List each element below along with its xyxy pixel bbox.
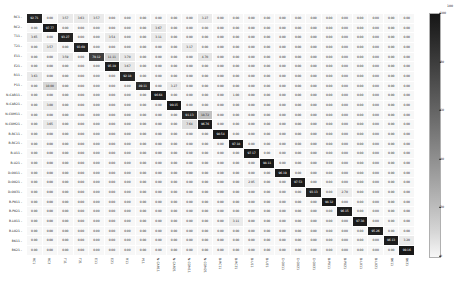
heatmap-cell: 0.00 — [73, 52, 89, 62]
heatmap-cell: 0.00 — [42, 197, 58, 207]
heatmap-cell: 0.00 — [259, 188, 275, 198]
heatmap-cell: 0.00 — [197, 130, 213, 140]
heatmap-cell: 0.00 — [73, 81, 89, 91]
heatmap-cell: 3.63 — [73, 14, 89, 24]
heatmap-cell: 0.00 — [337, 33, 353, 43]
heatmap-cell: 0.00 — [73, 130, 89, 140]
heatmap-cell: 0.00 — [399, 33, 415, 43]
heatmap-cell: 0.00 — [120, 159, 136, 169]
heatmap-cell: 0.00 — [228, 236, 244, 246]
heatmap-cell: 0.00 — [151, 101, 167, 111]
heatmap-cell: 0.00 — [337, 246, 353, 256]
heatmap-cell: 0.00 — [290, 101, 306, 111]
heatmap-cell: 0.00 — [89, 101, 105, 111]
heatmap-cell: 0.00 — [89, 23, 105, 33]
heatmap-cell: 0.00 — [259, 72, 275, 82]
heatmap-cell: 0.00 — [120, 43, 136, 53]
heatmap-cell: 0.00 — [120, 14, 136, 24]
heatmap-cell: 93.13 — [306, 188, 322, 198]
heatmap-cell: 0.00 — [337, 130, 353, 140]
heatmap-cell: 0.00 — [259, 139, 275, 149]
heatmap-cell: 0.00 — [306, 168, 322, 178]
heatmap-cell: 0.00 — [89, 178, 105, 188]
heatmap-cell: 0.00 — [166, 120, 182, 130]
heatmap-cell: 0.00 — [42, 139, 58, 149]
x-axis-tick-label: B-RC11 — [218, 258, 222, 269]
heatmap-cell: 0.00 — [135, 23, 151, 33]
heatmap-cell: 0.00 — [182, 62, 198, 72]
x-axis-tick-label: B-L011 — [359, 258, 363, 269]
heatmap-cell: 0.00 — [135, 72, 151, 82]
heatmap-cell: 0.00 — [368, 139, 384, 149]
heatmap-cell: 0.00 — [166, 178, 182, 188]
heatmap-cell: 0.00 — [151, 72, 167, 82]
heatmap-row: 0.003.000.000.000.000.000.000.000.0099.1… — [27, 101, 415, 111]
x-axis-tick-label: P11 — [141, 258, 145, 264]
x-axis-tick: B-U11 — [244, 257, 260, 293]
heatmap-cell: 0.00 — [213, 246, 229, 256]
heatmap-cell: 0.00 — [368, 91, 384, 101]
heatmap-cell: 0.00 — [213, 14, 229, 24]
heatmap-cell: 0.00 — [182, 168, 198, 178]
heatmap-cell: 0.00 — [352, 81, 368, 91]
heatmap-cell: 0.00 — [135, 120, 151, 130]
x-axis-tick: D-O021 — [291, 257, 307, 293]
heatmap-cell: 0.00 — [58, 188, 74, 198]
heatmap-cell: 0.00 — [228, 149, 244, 159]
heatmap-cell: 0.00 — [73, 149, 89, 159]
heatmap-cell: 0.00 — [290, 33, 306, 43]
heatmap-cell: 0.00 — [27, 81, 43, 91]
x-axis-tick-label: N-COM11 — [187, 258, 191, 273]
heatmap-cell: 0.00 — [368, 246, 384, 256]
x-axis-tick: E11 — [88, 257, 104, 293]
heatmap-cell: 0.00 — [290, 188, 306, 198]
heatmap-cell: 0.00 — [197, 236, 213, 246]
x-axis-labels: RC1RC2T11T21E11E21R11P11N-CAR11N-CAR21N-… — [26, 257, 415, 293]
x-axis-tick: B-P011 — [322, 257, 338, 293]
heatmap-row: 92.710.003.573.633.570.000.000.000.000.0… — [27, 14, 415, 24]
heatmap-cell: 0.00 — [166, 52, 182, 62]
heatmap-cell: 0.00 — [306, 149, 322, 159]
heatmap-cell: 0.00 — [104, 168, 120, 178]
heatmap-cell: 0.00 — [290, 217, 306, 227]
heatmap-cell: 0.00 — [213, 188, 229, 198]
heatmap-cell: 0.00 — [259, 130, 275, 140]
heatmap-cell: 96.76 — [197, 120, 213, 130]
x-axis-tick-label: T11 — [63, 258, 67, 264]
heatmap-cell: 2.70 — [337, 188, 353, 198]
heatmap-cell: 0.00 — [383, 52, 399, 62]
heatmap-cell: 0.00 — [27, 246, 43, 256]
heatmap-cell: 0.00 — [182, 52, 198, 62]
heatmap-cell: 0.00 — [73, 101, 89, 111]
heatmap-cell: 0.00 — [58, 120, 74, 130]
heatmap-cell: 0.00 — [228, 43, 244, 53]
heatmap-cell: 0.00 — [197, 72, 213, 82]
heatmap-cell: 0.00 — [120, 226, 136, 236]
heatmap-cell: 0.00 — [120, 130, 136, 140]
heatmap-cell: 0.00 — [58, 91, 74, 101]
heatmap-cell: 0.00 — [259, 197, 275, 207]
y-axis-tick-label: D-O011 - — [8, 169, 22, 179]
heatmap-cell: 0.00 — [321, 139, 337, 149]
heatmap-cell: 0.00 — [42, 72, 58, 82]
heatmap-cell: 0.00 — [399, 168, 415, 178]
heatmap-cell: 0.00 — [27, 110, 43, 120]
x-axis-tick-label: BK21 — [405, 258, 409, 266]
heatmap-cell: 0.00 — [58, 159, 74, 169]
heatmap-cell: 0.00 — [368, 149, 384, 159]
heatmap-cell: 0.00 — [290, 139, 306, 149]
heatmap-cell: 0.00 — [399, 178, 415, 188]
heatmap-cell: 0.00 — [290, 197, 306, 207]
heatmap-cell: 79.12 — [89, 52, 105, 62]
heatmap-cell: 0.00 — [321, 178, 337, 188]
heatmap-cell: 0.00 — [321, 159, 337, 169]
heatmap-cell: 0.00 — [383, 72, 399, 82]
heatmap-cell: 0.00 — [213, 217, 229, 227]
heatmap-cell: 0.00 — [399, 217, 415, 227]
y-axis-tick-label: N-COM11 - — [5, 110, 22, 120]
y-axis-tick-label: BK21 - — [12, 246, 22, 256]
heatmap-cell: 0.00 — [89, 168, 105, 178]
x-axis-tick-label: B-L021 — [374, 258, 378, 269]
colorbar — [429, 13, 441, 258]
heatmap-cell: 0.00 — [104, 178, 120, 188]
